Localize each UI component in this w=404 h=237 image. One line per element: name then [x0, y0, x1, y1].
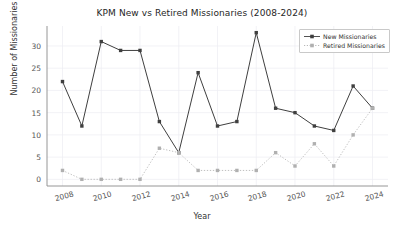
- legend-item-retired-missionaries[interactable]: Retired Missionaries: [303, 41, 385, 50]
- y-tick-label: 5: [36, 153, 41, 162]
- data-point-marker: [255, 169, 258, 172]
- legend-label-retired-missionaries: Retired Missionaries: [321, 42, 385, 49]
- data-point-marker: [293, 111, 296, 114]
- x-tick-label: 2018: [247, 189, 268, 203]
- y-tick-label: 15: [31, 108, 41, 117]
- data-point-marker: [119, 178, 122, 181]
- data-point-marker: [216, 124, 219, 127]
- data-point-marker: [332, 129, 335, 132]
- data-point-marker: [235, 169, 238, 172]
- data-point-marker: [100, 40, 103, 43]
- data-point-marker: [293, 164, 296, 167]
- x-tick-label: 2008: [53, 189, 74, 203]
- data-point-marker: [177, 151, 180, 154]
- data-point-marker: [371, 107, 374, 110]
- chart-title: KPM New vs Retired Missionaries (2008-20…: [0, 8, 404, 18]
- chart-legend[interactable]: New Missionaries Retired Missionaries: [299, 29, 390, 53]
- x-tick-label: 2010: [92, 189, 113, 203]
- chart-figure: KPM New vs Retired Missionaries (2008-20…: [0, 0, 404, 237]
- data-point-marker: [119, 49, 122, 52]
- y-tick-label: 20: [31, 86, 41, 95]
- x-axis-label: Year: [0, 212, 404, 221]
- data-point-marker: [313, 142, 316, 145]
- x-tick-label: 2020: [286, 189, 307, 203]
- legend-marker-solid-icon: [303, 32, 321, 41]
- x-tick-label: 2014: [170, 189, 191, 203]
- data-point-marker: [80, 178, 83, 181]
- x-tick-label: 2012: [131, 189, 152, 203]
- data-point-marker: [138, 178, 141, 181]
- data-point-marker: [255, 31, 258, 34]
- legend-label-new-missionaries: New Missionaries: [321, 33, 376, 40]
- data-point-marker: [332, 164, 335, 167]
- data-point-marker: [158, 147, 161, 150]
- data-point-marker: [274, 151, 277, 154]
- data-point-marker: [196, 71, 199, 74]
- data-point-marker: [138, 49, 141, 52]
- data-point-marker: [196, 169, 199, 172]
- data-point-marker: [351, 84, 354, 87]
- data-point-marker: [313, 124, 316, 127]
- legend-marker-dotted-icon: [303, 41, 321, 50]
- y-tick-label: 0: [36, 175, 41, 184]
- legend-item-new-missionaries[interactable]: New Missionaries: [303, 32, 385, 41]
- data-point-marker: [216, 169, 219, 172]
- data-point-marker: [235, 120, 238, 123]
- y-axis-ticks: 051015202530: [0, 26, 45, 186]
- x-tick-label: 2022: [325, 189, 346, 203]
- data-point-marker: [80, 124, 83, 127]
- y-tick-label: 30: [31, 42, 41, 51]
- y-tick-label: 10: [31, 130, 41, 139]
- x-tick-label: 2016: [208, 189, 229, 203]
- x-tick-label: 2024: [363, 189, 384, 203]
- data-point-marker: [61, 80, 64, 83]
- data-point-marker: [351, 133, 354, 136]
- data-point-marker: [158, 120, 161, 123]
- data-point-marker: [100, 178, 103, 181]
- data-point-marker: [274, 107, 277, 110]
- x-axis-ticks: 200820102012201420162018202020222024: [47, 192, 388, 210]
- y-tick-label: 25: [31, 64, 41, 73]
- data-point-marker: [61, 169, 64, 172]
